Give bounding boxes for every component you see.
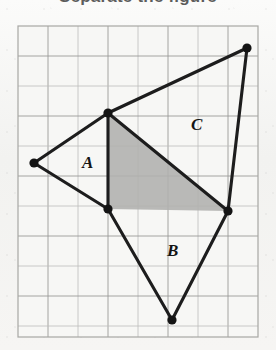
geometry-figure: A B C [0,0,276,350]
right-vertex [223,206,232,215]
inner-left-vertex [103,204,112,213]
region-label-a: A [81,153,93,172]
top-middle-vertex [103,108,112,117]
top-right-vertex [242,43,251,52]
left-vertex [29,158,38,167]
region-label-c: C [191,115,203,134]
region-label-b: B [166,241,178,260]
figure-canvas: A B C [0,0,276,350]
bottom-vertex [167,315,176,324]
